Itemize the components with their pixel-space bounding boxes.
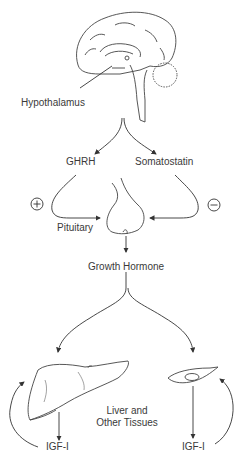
growth-hormone-label: Growth Hormone [88, 261, 164, 272]
tissues-label-line2: Other Tissues [96, 417, 158, 428]
somatostatin-label: Somatostatin [135, 156, 193, 167]
ghrh-label: GHRH [66, 156, 95, 167]
somatostatin-to-pituitary-arrow [150, 175, 198, 218]
pituitary-illustration [107, 178, 144, 234]
minus-sign-icon [208, 199, 220, 211]
hypothalamus-arrows [95, 118, 156, 154]
igf-cell-label: IGF-I [182, 441, 205, 452]
gh-split-arrows [58, 272, 193, 352]
pituitary-label: Pituitary [57, 222, 93, 233]
cell-illustration [168, 367, 218, 383]
igf-liver-label: IGF-I [46, 441, 69, 452]
cell-feedback-arrow [215, 379, 233, 444]
ghrh-to-pituitary-arrow [52, 175, 100, 218]
diagram-canvas [0, 0, 245, 468]
liver-feedback-arrow [10, 382, 38, 447]
plus-sign-icon [31, 198, 43, 210]
tissues-label-line1: Liver and [96, 405, 158, 416]
brain-illustration [77, 12, 177, 122]
hypothalamus-label: Hypothalamus [21, 97, 85, 108]
